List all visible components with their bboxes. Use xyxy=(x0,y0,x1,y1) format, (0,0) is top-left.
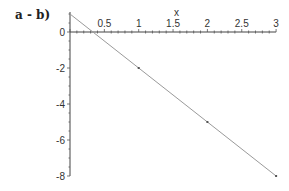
y-tick-label: -8 xyxy=(56,171,65,182)
data-point xyxy=(138,67,140,69)
data-point xyxy=(275,175,277,177)
tick-labels: 0.511.522.530-2-4-6-8x xyxy=(56,7,279,182)
x-tick-label: 3 xyxy=(273,18,279,29)
x-axis-label: x xyxy=(174,7,179,18)
y-tick-label: -6 xyxy=(56,135,65,146)
x-tick-label: 0.5 xyxy=(97,18,111,29)
x-tick-label: 1 xyxy=(136,18,142,29)
y-tick-label: -2 xyxy=(56,63,65,74)
x-tick-label: 2 xyxy=(205,18,211,29)
x-tick-label: 1.5 xyxy=(166,18,180,29)
y-tick-label: 0 xyxy=(59,27,65,38)
x-tick-label: 2.5 xyxy=(235,18,249,29)
chart-plot-area: 0.511.522.530-2-4-6-8x xyxy=(0,0,289,191)
data-series xyxy=(70,14,277,177)
data-point xyxy=(206,121,208,123)
y-tick-label: -4 xyxy=(56,99,65,110)
series-line xyxy=(70,14,276,176)
